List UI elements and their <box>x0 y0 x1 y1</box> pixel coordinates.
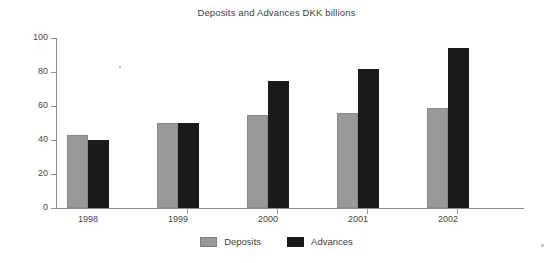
legend-label-advances: Advances <box>311 236 353 247</box>
legend-item-deposits[interactable]: Deposits <box>200 236 261 247</box>
bar-deposits-1998[interactable] <box>67 135 88 208</box>
bar-advances-1998[interactable] <box>88 140 109 208</box>
y-tick-label-40: 40 <box>38 134 48 144</box>
y-tick-label-60: 60 <box>38 100 48 110</box>
legend-item-advances[interactable]: Advances <box>287 236 353 247</box>
bar-deposits-2001[interactable] <box>337 113 358 208</box>
legend-label-deposits: Deposits <box>224 236 261 247</box>
chart-legend: Deposits Advances <box>0 236 553 247</box>
y-axis-line <box>56 38 57 208</box>
x-label-2002: 2002 <box>418 214 478 224</box>
bar-advances-2001[interactable] <box>358 69 379 208</box>
bar-advances-2002[interactable] <box>448 48 469 208</box>
x-axis-line <box>56 208 524 209</box>
x-label-2001: 2001 <box>328 214 388 224</box>
bar-deposits-2000[interactable] <box>247 115 268 209</box>
x-label-1998: 1998 <box>58 214 118 224</box>
y-tick-label-100: 100 <box>33 32 48 42</box>
bar-chart-figure: Deposits and Advances DKK billions 0 20 … <box>0 0 553 263</box>
y-tick-label-20: 20 <box>38 168 48 178</box>
x-label-2000: 2000 <box>238 214 298 224</box>
bar-group-2000 <box>247 38 289 208</box>
chart-title: Deposits and Advances DKK billions <box>0 7 553 18</box>
bar-group-2001 <box>337 38 379 208</box>
bar-deposits-2002[interactable] <box>427 108 448 208</box>
legend-swatch-advances-icon <box>287 237 304 247</box>
bar-advances-1999[interactable] <box>178 123 199 208</box>
plot-area: 0 20 40 60 80 100 19 <box>56 38 524 208</box>
bar-deposits-1999[interactable] <box>157 123 178 208</box>
y-tick-label-80: 80 <box>38 66 48 76</box>
bar-group-2002 <box>427 38 469 208</box>
bar-advances-2000[interactable] <box>268 81 289 209</box>
bar-group-1999 <box>157 38 199 208</box>
x-label-1999: 1999 <box>148 214 208 224</box>
bar-group-1998 <box>67 38 109 208</box>
legend-swatch-deposits-icon <box>200 237 217 247</box>
scan-speckle <box>541 244 544 247</box>
scan-speckle <box>119 66 121 68</box>
y-tick-label-0: 0 <box>43 202 48 212</box>
